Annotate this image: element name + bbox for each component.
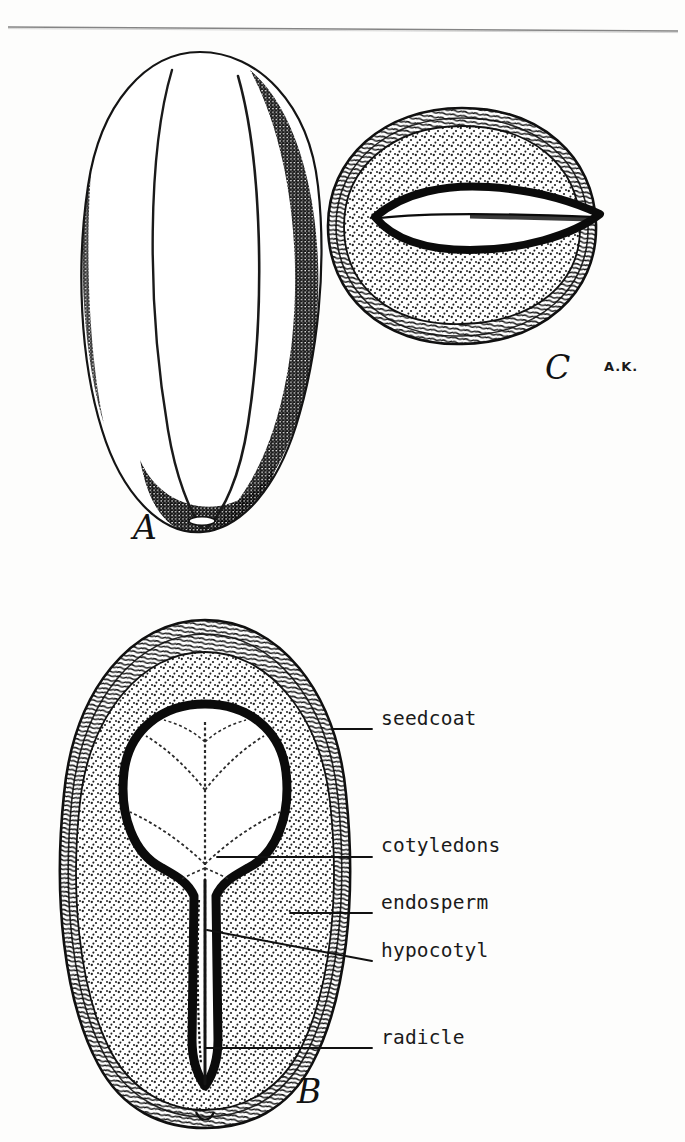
annotation-label-radicle: radicle — [381, 1026, 465, 1049]
figure-c-cross-section — [328, 108, 600, 350]
artist-signature: A.K. — [604, 359, 638, 374]
figure-a-hilum — [189, 517, 215, 525]
top-page-rule — [8, 27, 678, 33]
annotation-label-cotyledons: cotyledons — [381, 834, 500, 857]
figure-a-whole-seed — [70, 45, 335, 545]
illustration-plate: seedcoat cotyledons endosperm hypocotyl … — [0, 0, 685, 1142]
figure-label-c: C — [545, 348, 570, 387]
figure-label-b: B — [297, 1072, 321, 1111]
annotation-label-hypocotyl: hypocotyl — [381, 939, 488, 962]
figure-b-longitudinal-section — [60, 620, 360, 1130]
annotation-label-seedcoat: seedcoat — [381, 707, 477, 730]
plate-artwork — [0, 0, 685, 1142]
annotation-label-endosperm: endosperm — [381, 891, 488, 914]
figure-label-a: A — [133, 508, 157, 547]
